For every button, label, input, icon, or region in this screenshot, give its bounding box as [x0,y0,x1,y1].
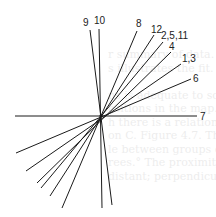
vector-labels: 79108122,5,1141,36 [83,15,206,122]
vector-line-1-3 [26,64,181,171]
vector-label-1-3: 1,3 [182,53,196,64]
vector-label-7: 7 [200,111,206,122]
vector-diagram: 79108122,5,1141,36 [0,0,216,217]
vector-lines [15,29,197,208]
origin-point [99,114,102,117]
vector-label-8: 8 [136,18,142,29]
vector-label-9: 9 [83,17,89,28]
vector-label-4: 4 [169,41,175,52]
vector-label-2-5-11: 2,5,11 [161,30,188,41]
vector-label-10: 10 [94,15,106,26]
vector-label-6: 6 [193,73,199,84]
